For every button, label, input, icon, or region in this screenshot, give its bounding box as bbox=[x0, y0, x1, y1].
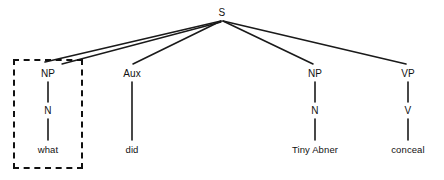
branch-s-to-aux bbox=[133, 21, 221, 64]
branch-s-to-subj-np bbox=[223, 21, 313, 64]
node-subject-n: N bbox=[311, 106, 318, 116]
branch-s-to-wh-np-secondary bbox=[62, 22, 221, 64]
branch-s-to-vp bbox=[223, 21, 406, 64]
syntax-tree-figure: S NP N what Aux did NP N Tiny Abner VP V… bbox=[0, 0, 444, 180]
leaf-did: did bbox=[126, 145, 139, 155]
leaf-what: what bbox=[38, 145, 58, 155]
node-s: S bbox=[219, 8, 226, 18]
node-wh-np: NP bbox=[41, 69, 55, 79]
leaf-conceal: conceal bbox=[391, 145, 424, 155]
branch-s-to-wh-np bbox=[45, 21, 221, 62]
node-vp: VP bbox=[401, 69, 415, 79]
tree-branch-lines bbox=[0, 0, 444, 180]
leaf-tiny-abner: Tiny Abner bbox=[292, 145, 338, 155]
node-subject-np: NP bbox=[308, 69, 322, 79]
node-wh-n: N bbox=[44, 106, 51, 116]
node-aux: Aux bbox=[123, 69, 141, 79]
node-v: V bbox=[405, 106, 412, 116]
